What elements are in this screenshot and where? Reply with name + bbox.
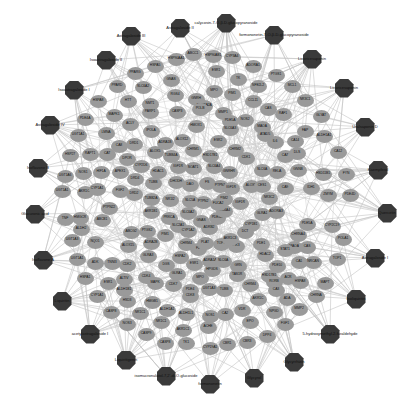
target-node[interactable]: TNNI3 (104, 257, 121, 270)
target-node[interactable]: ESR1 (208, 65, 225, 78)
target-node[interactable]: IGF1R (170, 161, 187, 174)
target-node[interactable]: ESR1 (186, 258, 203, 271)
target-node[interactable]: ALOX5 (147, 146, 164, 159)
target-node[interactable]: NR3C2 (261, 192, 278, 205)
target-node[interactable]: CAS (299, 241, 316, 254)
target-node[interactable]: NOS1 (202, 310, 219, 323)
target-node[interactable]: HSPA1 (77, 272, 94, 285)
target-node[interactable]: SOAT1 (185, 162, 202, 175)
target-node[interactable]: CASP3 (169, 106, 186, 119)
target-node[interactable]: CCL11 (245, 95, 262, 108)
target-node[interactable]: DCT (237, 226, 254, 239)
target-node[interactable]: PIM1 (224, 88, 241, 101)
target-node[interactable]: PPARG (127, 67, 144, 80)
target-node[interactable]: AKR1C (250, 293, 267, 306)
target-node[interactable]: AKR1B1 (143, 206, 160, 219)
target-node[interactable]: HSD3 (119, 295, 136, 308)
target-node[interactable]: ABCC1 (185, 48, 202, 61)
target-node[interactable]: PTPN22 (101, 202, 118, 215)
target-node[interactable]: SLC6A (254, 164, 271, 177)
target-node[interactable]: ADK (87, 257, 104, 270)
target-node[interactable]: MAPT (317, 277, 334, 290)
target-node[interactable]: TUBB2A (143, 193, 160, 206)
target-node[interactable]: PARP1 (142, 106, 159, 119)
target-node[interactable]: CAT (99, 148, 116, 161)
target-node[interactable]: CYP1A1 (89, 290, 106, 303)
target-node[interactable]: NR1C1 (132, 307, 149, 320)
target-node[interactable]: ABCG2 (123, 226, 140, 239)
target-node[interactable]: GLYAT (313, 110, 330, 123)
target-node[interactable]: SLC6A4 (206, 161, 223, 174)
target-node[interactable]: NPGD (266, 306, 283, 319)
target-node[interactable]: UGT1A6 (57, 170, 74, 183)
target-node[interactable]: HIF1A (93, 166, 110, 179)
target-node[interactable]: PDE4A (77, 113, 94, 126)
target-node[interactable]: RAPT1 (82, 148, 99, 161)
target-node[interactable]: NR1C1 (153, 316, 170, 329)
target-node[interactable]: DRD4 (127, 173, 144, 186)
target-node[interactable]: CBR1 (219, 338, 236, 351)
target-node[interactable]: RELA (269, 166, 286, 179)
target-node[interactable]: ADORA3 (268, 206, 285, 219)
target-node[interactable]: NOS2 (237, 114, 254, 127)
target-node[interactable]: HPGDS (204, 264, 221, 277)
target-node[interactable]: CASP8 (103, 306, 120, 319)
target-node[interactable]: SLC6A2 (135, 81, 152, 94)
target-node[interactable]: CHRM1 (185, 144, 202, 157)
target-node[interactable]: FYN (338, 168, 355, 181)
target-node[interactable]: IDH1 (303, 182, 320, 195)
target-node[interactable]: CDK1 (238, 152, 255, 165)
target-node[interactable]: ADA (279, 293, 296, 306)
target-node[interactable]: CHRM4 (242, 279, 259, 292)
target-node[interactable]: CA14 (287, 135, 304, 148)
target-node[interactable]: CA12 (330, 146, 347, 159)
target-node[interactable]: TAS1R (229, 269, 246, 282)
target-node[interactable]: MAPK1 (106, 109, 123, 122)
target-node[interactable]: HTT (120, 95, 137, 108)
target-node[interactable]: HSD11B1 (315, 168, 332, 181)
target-node[interactable]: CBR3 (239, 336, 256, 349)
target-node[interactable]: MAPK (147, 277, 164, 290)
target-node[interactable]: TK1 (178, 337, 195, 350)
target-node[interactable]: HMGB1 (144, 296, 161, 309)
target-node[interactable]: DAO (182, 179, 199, 192)
target-node[interactable]: DRD1 (126, 138, 143, 151)
target-node[interactable]: ALDH1A1 (316, 130, 333, 143)
target-node[interactable]: PTGS1 (268, 69, 285, 82)
target-node[interactable]: MPO (206, 85, 223, 98)
target-node[interactable]: ALDH1A1 (159, 304, 176, 317)
target-node[interactable]: CAS (260, 103, 277, 116)
target-node[interactable]: SLC6A3 (222, 123, 239, 136)
target-node[interactable]: GNAS (163, 74, 180, 87)
target-node[interactable]: PTGS2 (139, 225, 156, 238)
target-node[interactable]: NRCAN (305, 256, 322, 269)
target-node[interactable]: CYP1A2 (180, 225, 197, 238)
target-node[interactable]: FUCA2 (210, 198, 227, 211)
target-node[interactable]: NFE2L2 (250, 80, 267, 93)
target-node[interactable]: HSPA5 (147, 60, 164, 73)
target-node[interactable]: VDR (234, 304, 251, 317)
target-node[interactable]: CYP3A4 (224, 51, 241, 64)
target-node[interactable]: CHRNA (308, 290, 325, 303)
target-node[interactable]: STAT1 (277, 244, 294, 257)
target-node[interactable]: TUBB (216, 284, 233, 297)
target-node[interactable]: TK (230, 73, 247, 86)
target-node[interactable]: CDK2 (119, 259, 136, 272)
target-node[interactable]: NR3C1 (297, 94, 314, 107)
target-node[interactable]: HSP90AA1 (168, 53, 185, 66)
target-node[interactable]: POLB (192, 103, 209, 116)
target-node[interactable]: MCL1 (284, 80, 301, 93)
target-node[interactable]: CYP2D6 (133, 160, 150, 173)
target-node[interactable]: ADRB2 (201, 222, 218, 235)
target-node[interactable]: GLRA3 (140, 250, 157, 263)
target-node[interactable]: CYP2C19 (324, 220, 341, 233)
target-node[interactable]: CHRNA4 (290, 229, 307, 242)
target-node[interactable]: ABCB1 (94, 214, 111, 227)
target-node[interactable]: MMP2 (291, 303, 308, 316)
target-node[interactable]: ESR1 (100, 277, 117, 290)
target-node[interactable]: HMOX1 (188, 120, 205, 133)
target-node[interactable]: ALDH1L1 (178, 308, 195, 321)
target-node[interactable]: HDAC2 (257, 249, 274, 262)
target-node[interactable]: RGS4 (167, 89, 184, 102)
target-node[interactable]: NQO1 (87, 236, 104, 249)
